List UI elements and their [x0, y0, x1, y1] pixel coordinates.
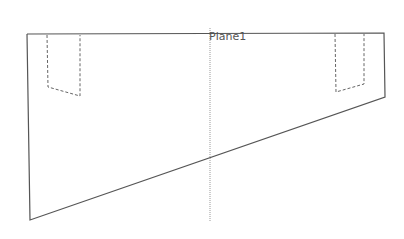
right-hidden-pocket: [335, 34, 364, 92]
plane-label: Plane1: [209, 30, 246, 43]
outer-profile: [27, 33, 385, 220]
left-hidden-pocket: [47, 35, 80, 96]
sketch-canvas: [0, 0, 404, 239]
